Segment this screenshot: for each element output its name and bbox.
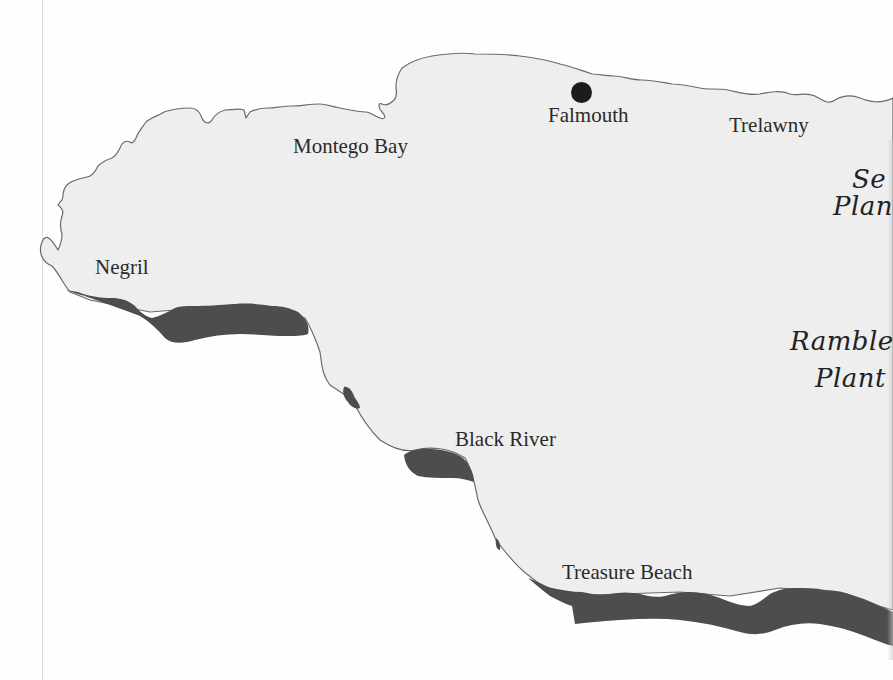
script-label-rambles-line2: Plant — [815, 365, 886, 391]
script-label-plantation-1-line1: Se — [852, 166, 886, 192]
place-label-falmouth: Falmouth — [548, 105, 629, 126]
place-label-negril: Negril — [95, 257, 149, 278]
place-label-trelawny: Trelawny — [729, 115, 809, 136]
jamaica-map — [0, 0, 893, 680]
falmouth-marker — [571, 82, 592, 103]
script-label-rambles-line1: Ramble — [790, 328, 893, 354]
place-label-black-river: Black River — [455, 429, 556, 450]
place-label-montego-bay: Montego Bay — [293, 136, 408, 157]
script-label-plantation-1-line2: Plan — [833, 193, 893, 219]
place-label-treasure-beach: Treasure Beach — [562, 562, 692, 583]
